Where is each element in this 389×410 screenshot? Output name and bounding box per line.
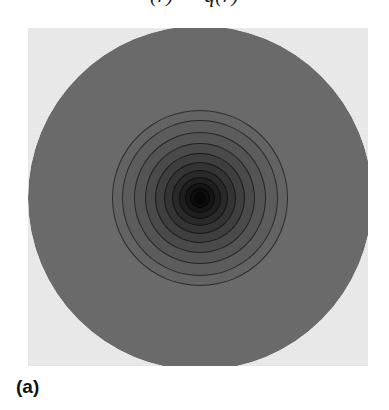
figure-panel — [28, 28, 368, 366]
figure-caption-fragment: (r) — q(r) — [0, 0, 389, 8]
contour-plot-disk — [28, 28, 368, 366]
subfigure-label: (a) — [16, 376, 39, 398]
caption-fragment-clip: (r) — q(r) — [0, 0, 389, 14]
contour-band-level-12 — [194, 192, 206, 204]
